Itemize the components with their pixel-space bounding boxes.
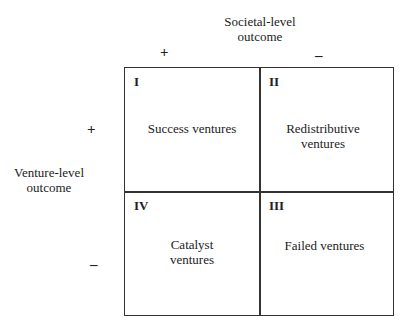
societal-title-line1: Societal-level <box>200 14 320 29</box>
label-line2: ventures <box>252 136 394 151</box>
quadrant-label: Failed ventures <box>255 238 394 253</box>
societal-minus-sign: – <box>315 47 323 64</box>
venture-minus-sign: – <box>90 256 98 273</box>
quadrant-number: I <box>134 74 139 90</box>
label-line1: Catalyst <box>125 237 259 252</box>
quadrant-III: III Failed ventures <box>260 192 394 316</box>
societal-plus-sign: + <box>160 44 169 61</box>
quadrant-number: IV <box>134 198 148 214</box>
label-line1: Failed ventures <box>255 238 394 253</box>
societal-title-line2: outcome <box>200 29 320 44</box>
label-line1: Redistributive <box>252 121 394 136</box>
label-line2: ventures <box>125 252 259 267</box>
venture-plus-sign: + <box>87 121 96 138</box>
quadrant-I: I Success ventures <box>125 68 259 191</box>
quadrant-IV: IV Catalyst ventures <box>125 192 259 316</box>
venture-title-line2: outcome <box>4 180 94 195</box>
venture-axis-title: Venture-level outcome <box>4 165 94 195</box>
quadrant-matrix: I Success ventures II Redistributive ven… <box>124 67 394 316</box>
quadrant-label: Catalyst ventures <box>125 237 259 267</box>
quadrant-number: II <box>269 74 279 90</box>
venture-title-line1: Venture-level <box>4 165 94 180</box>
label-line1: Success ventures <box>125 121 259 136</box>
quadrant-label: Redistributive ventures <box>252 121 394 151</box>
quadrant-label: Success ventures <box>125 121 259 136</box>
societal-axis-title: Societal-level outcome <box>200 14 320 44</box>
quadrant-number: III <box>269 198 284 214</box>
quadrant-II: II Redistributive ventures <box>260 68 394 191</box>
